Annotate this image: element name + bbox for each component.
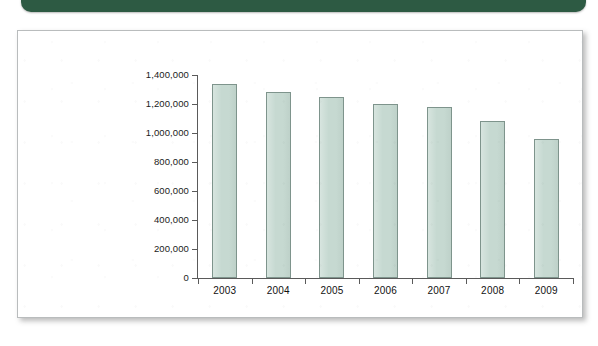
- bar: [427, 107, 452, 278]
- x-axis-line: [197, 278, 573, 279]
- x-tick-label: 2004: [267, 285, 290, 296]
- bar: [480, 121, 505, 278]
- y-tick-mark: [192, 191, 198, 192]
- y-tick-label: 200,000: [154, 244, 189, 254]
- bar-sheen: [481, 122, 504, 277]
- bar: [319, 97, 344, 278]
- y-tick-label: 400,000: [154, 215, 189, 225]
- x-tick-mark: [198, 278, 199, 284]
- bar: [534, 139, 559, 278]
- plot-area: 0200,000400,000600,000800,0001,000,0001,…: [111, 75, 598, 325]
- y-tick-mark: [192, 75, 198, 76]
- bar-sheen: [374, 105, 397, 277]
- x-tick-label: 2009: [535, 285, 558, 296]
- y-tick-label: 1,200,000: [146, 99, 189, 109]
- x-tick-label: 2005: [320, 285, 343, 296]
- y-tick-mark: [192, 133, 198, 134]
- x-tick-mark: [519, 278, 520, 284]
- x-tick-mark: [412, 278, 413, 284]
- x-tick-mark: [573, 278, 574, 284]
- bar-sheen: [320, 98, 343, 277]
- y-tick-label: 1,400,000: [146, 70, 189, 80]
- y-tick-label: 0: [184, 273, 189, 283]
- y-tick-mark: [192, 249, 198, 250]
- bar-sheen: [428, 108, 451, 277]
- y-tick-label: 800,000: [154, 157, 189, 167]
- y-tick-mark: [192, 220, 198, 221]
- bar-chart: 0200,000400,000600,000800,0001,000,0001,…: [58, 47, 598, 333]
- y-tick-mark: [192, 104, 198, 105]
- bar: [373, 104, 398, 278]
- y-axis: 0200,000400,000600,000800,0001,000,0001,…: [111, 75, 197, 277]
- x-tick-mark: [252, 278, 253, 284]
- bar-sheen: [267, 93, 290, 277]
- x-tick-mark: [466, 278, 467, 284]
- x-tick-mark: [305, 278, 306, 284]
- y-tick-label: 600,000: [154, 186, 189, 196]
- y-tick-mark: [192, 162, 198, 163]
- bar: [212, 84, 237, 278]
- x-tick-label: 2006: [374, 285, 397, 296]
- chart-card: 0200,000400,000600,000800,0001,000,0001,…: [17, 30, 583, 318]
- bars-container: [198, 75, 573, 278]
- x-tick-label: 2007: [428, 285, 451, 296]
- y-tick-label: 1,000,000: [146, 128, 189, 138]
- bar-sheen: [213, 85, 236, 277]
- bar: [266, 92, 291, 278]
- x-axis: 2003200420052006200720082009: [198, 285, 573, 303]
- x-tick-label: 2008: [481, 285, 504, 296]
- x-tick-label: 2003: [213, 285, 236, 296]
- bar-sheen: [535, 140, 558, 277]
- x-tick-mark: [359, 278, 360, 284]
- header-band: [21, 0, 586, 12]
